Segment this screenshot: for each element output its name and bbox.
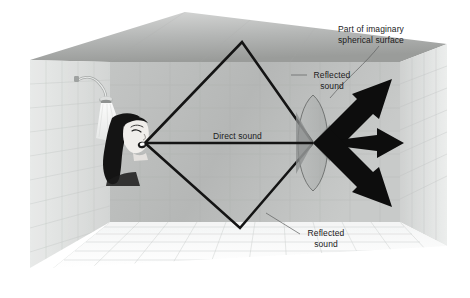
label-reflected-sound-upper-line1: Reflected: [310, 70, 354, 81]
label-imaginary-surface: Part of imaginary spherical surface: [338, 24, 404, 45]
label-imaginary-surface-line2: spherical surface: [338, 35, 404, 46]
label-reflected-sound-upper-line2: sound: [310, 81, 354, 92]
label-reflected-sound-lower: Reflected sound: [303, 228, 349, 249]
label-direct-sound: Direct sound: [213, 131, 262, 142]
label-imaginary-surface-line1: Part of imaginary: [338, 24, 404, 35]
right-wall: [400, 44, 447, 246]
label-reflected-sound-upper: Reflected sound: [310, 70, 354, 91]
label-reflected-sound-lower-line2: sound: [303, 239, 349, 250]
label-reflected-sound-lower-line1: Reflected: [303, 228, 349, 239]
figure-root: Part of imaginary spherical surface Refl…: [0, 0, 470, 298]
floor: [53, 222, 447, 268]
